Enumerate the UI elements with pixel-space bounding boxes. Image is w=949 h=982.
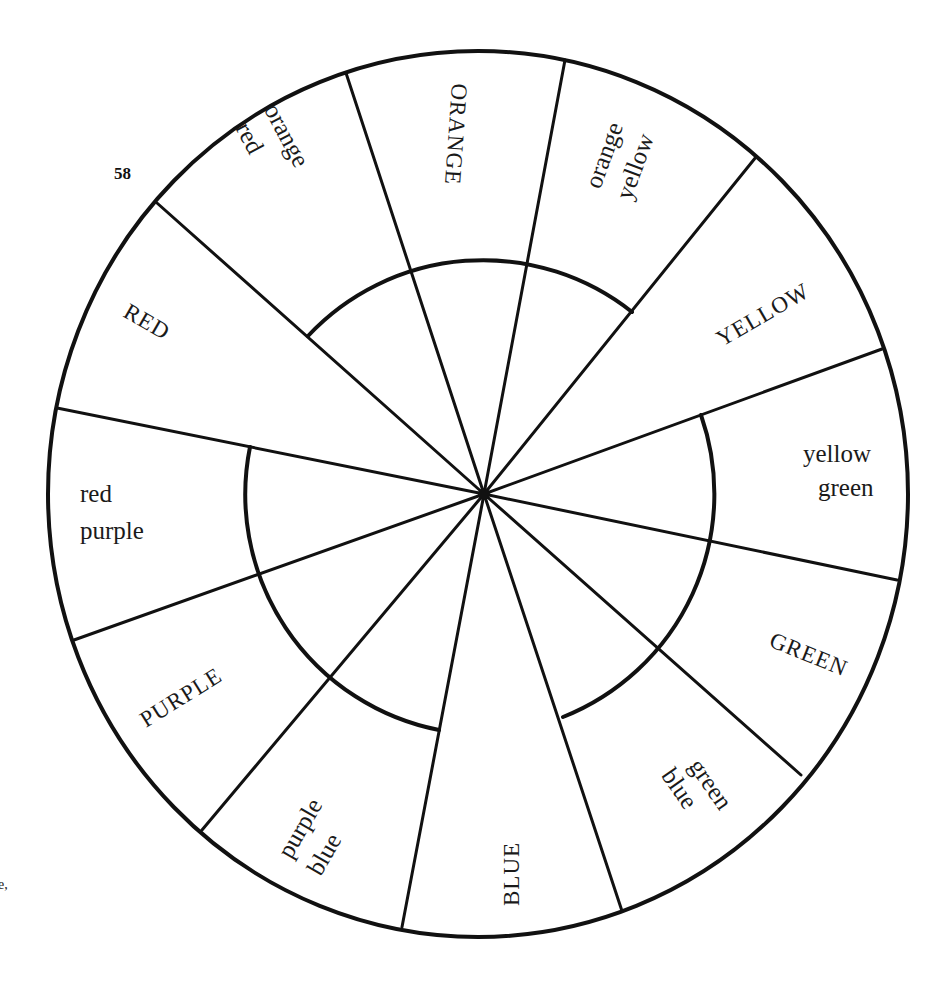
label-purple-blue: purple blue [272,794,357,880]
label-yellow: YELLOW [712,278,814,351]
spoke-blue-purpleblue [402,494,484,927]
label-blue: BLUE [499,842,524,906]
label-red-purple: red purple [80,480,144,544]
label-orange-red: orange red [229,99,315,188]
svg-text:red: red [231,117,270,158]
svg-text:yellow: yellow [803,440,871,467]
label-red: RED [120,299,175,345]
inner-arc-left [245,447,439,730]
inner-arc-top [308,260,632,336]
spoke-redpurple-red [57,408,484,494]
spoke-orange-orangeyellow [484,60,565,494]
label-yellow-green: yellow green [803,440,874,501]
svg-text:green: green [818,474,874,501]
label-orange: ORANGE [440,83,472,186]
spoke-yellowgreen-green [484,494,897,580]
svg-text:orange: orange [259,99,315,172]
color-wheel: 58 e, ORANGE orange yellow YELLOW yellow… [0,0,949,982]
svg-text:red: red [80,480,112,507]
spokes [57,60,897,927]
svg-text:purple: purple [80,517,144,544]
margin-mark: e, [0,877,8,892]
label-purple: PURPLE [135,662,226,732]
inner-arc-right [563,415,714,717]
label-orange-yellow: orange yellow [579,119,659,203]
label-green-blue: green blue [656,747,738,831]
label-green: GREEN [766,627,851,681]
page-number: 58 [114,164,131,183]
hub-dot [478,488,490,500]
